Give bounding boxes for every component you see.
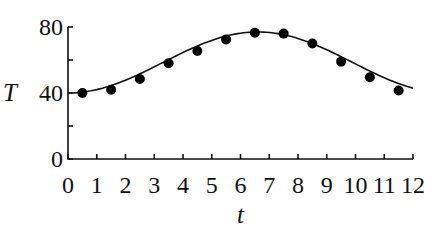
- data-point: [164, 58, 174, 68]
- x-tick-label: 7: [263, 172, 275, 198]
- x-tick-label: 8: [292, 172, 304, 198]
- data-point: [307, 39, 317, 49]
- axis-lines: [68, 27, 413, 159]
- axes: [68, 27, 413, 159]
- x-tick-label: 12: [401, 172, 425, 198]
- data-point: [250, 28, 260, 38]
- x-tick-label: 9: [321, 172, 333, 198]
- x-tick-label: 11: [373, 172, 396, 198]
- x-tick-label: 3: [148, 172, 160, 198]
- data-point: [394, 86, 404, 96]
- x-tick-label: 1: [91, 172, 103, 198]
- x-tick-label: 6: [235, 172, 247, 198]
- data-point: [135, 74, 145, 84]
- y-tick-label: 40: [39, 80, 63, 106]
- tick-labels: 040800123456789101112: [39, 14, 425, 198]
- fitted-curve: [68, 32, 413, 93]
- data-point: [77, 88, 87, 98]
- data-point: [336, 57, 346, 67]
- y-axis-title: T: [3, 79, 19, 106]
- chart: 040800123456789101112 T t: [0, 0, 448, 231]
- x-axis-title: t: [237, 201, 245, 228]
- y-tick-label: 80: [39, 14, 63, 40]
- x-tick-label: 4: [177, 172, 189, 198]
- data-point: [192, 46, 202, 56]
- y-tick-label: 0: [51, 146, 63, 172]
- data-point: [365, 72, 375, 82]
- data-point: [221, 34, 231, 44]
- x-tick-label: 2: [120, 172, 132, 198]
- x-tick-label: 10: [344, 172, 368, 198]
- x-tick-label: 0: [62, 172, 74, 198]
- data-point: [106, 85, 116, 95]
- data-point: [279, 29, 289, 39]
- x-tick-label: 5: [206, 172, 218, 198]
